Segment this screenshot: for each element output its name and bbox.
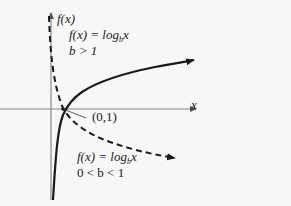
label-b-between-0-1-condition: 0 < b < 1 (77, 166, 137, 180)
label-b-between-0-1: f(x) = logbx 0 < b < 1 (77, 150, 137, 180)
formula-prefix: f(x) = log (69, 27, 119, 42)
formula-arg: x (123, 27, 129, 42)
y-axis-label-text: f(x) (57, 11, 75, 26)
label-b-greater-1-condition: b > 1 (69, 44, 129, 58)
formula-base: b (119, 35, 123, 44)
x-axis-label: x (191, 98, 197, 112)
point-label-text: (0,1) (92, 109, 117, 124)
label-b-greater-1-formula: f(x) = logbx (69, 28, 129, 44)
x-axis-label-text: x (191, 97, 197, 112)
label-b-greater-1: f(x) = logbx b > 1 (69, 28, 129, 58)
point-label: (0,1) (92, 110, 117, 124)
y-axis-label: f(x) (57, 12, 75, 26)
formula-arg: x (131, 149, 137, 164)
graph-canvas (0, 0, 291, 206)
label-b-between-0-1-formula: f(x) = logbx (77, 150, 137, 166)
formula-prefix: f(x) = log (77, 149, 127, 164)
log-function-diagram: f(x) x (0,1) f(x) = logbx b > 1 f(x) = l… (0, 0, 291, 206)
intersection-point (61, 107, 65, 111)
formula-base: b (127, 157, 131, 166)
